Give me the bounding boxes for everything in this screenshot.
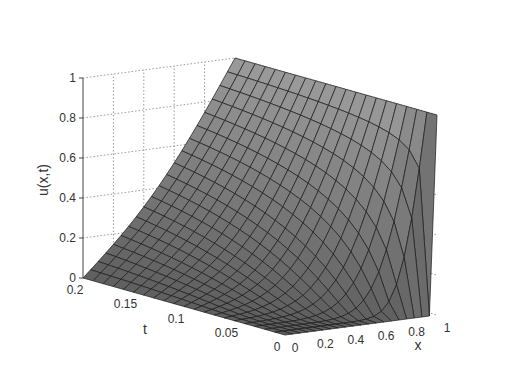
x-tick-label: 0.6: [378, 329, 395, 343]
surface-plot-figure: 00.20.40.60.8100.050.10.150.200.20.40.60…: [0, 0, 529, 375]
surface-mesh: [83, 58, 437, 335]
t-axis-label: t: [143, 321, 147, 337]
z-tick-label: 0.4: [59, 191, 76, 205]
z-tick-label: 1: [69, 71, 76, 85]
x-tick-label: 0: [292, 341, 299, 355]
t-tick-label: 0.2: [67, 283, 84, 297]
t-tick-label: 0.1: [168, 312, 185, 326]
z-axis-label: u(x,t): [35, 164, 51, 196]
x-axis-label: x: [415, 337, 422, 353]
x-tick-label: 1: [444, 321, 451, 335]
x-tick-label: 0.2: [317, 337, 334, 351]
z-tick-label: 0.2: [59, 231, 76, 245]
t-tick-label: 0.15: [114, 297, 138, 311]
axes: [79, 78, 83, 278]
z-tick-label: 0.8: [59, 111, 76, 125]
t-tick-label: 0: [274, 340, 281, 354]
x-tick-label: 0.4: [347, 333, 364, 347]
z-tick-label: 0.6: [59, 151, 76, 165]
t-tick-label: 0.05: [215, 326, 239, 340]
surface-plot: 00.20.40.60.8100.050.10.150.200.20.40.60…: [0, 0, 529, 375]
